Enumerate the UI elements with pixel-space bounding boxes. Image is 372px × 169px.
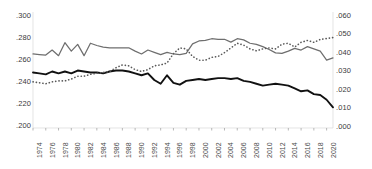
x-axis-tick-label: 2002 bbox=[215, 142, 222, 158]
x-axis-tick-label: 1992 bbox=[151, 142, 158, 158]
x-axis-tick-label: 2020 bbox=[330, 142, 337, 158]
x-axis-tick-label: 1984 bbox=[100, 142, 107, 158]
series-gray-solid bbox=[33, 39, 333, 60]
chart-container: .300 .280 .260 .240 .220 .200 .060 .050 … bbox=[0, 0, 372, 169]
x-axis-tick-label: 1990 bbox=[138, 142, 145, 158]
series-lines bbox=[33, 38, 333, 108]
x-axis-tick-label: 2000 bbox=[202, 142, 209, 158]
x-axis-tick-label: 1994 bbox=[164, 142, 171, 158]
x-axis-tick-label: 2006 bbox=[240, 142, 247, 158]
x-axis-tick-label: 1998 bbox=[189, 142, 196, 158]
x-axis-tick-label: 2018 bbox=[317, 142, 324, 158]
x-axis-tick-label: 2012 bbox=[279, 142, 286, 158]
x-axis-tick-label: 1974 bbox=[36, 142, 43, 158]
x-axis-tick-label: 2010 bbox=[266, 142, 273, 158]
x-axis-tick-label: 1976 bbox=[49, 142, 56, 158]
x-axis-tick-label: 2016 bbox=[304, 142, 311, 158]
x-axis-tick-label: 1978 bbox=[62, 142, 69, 158]
x-axis-tick-label: 1988 bbox=[125, 142, 132, 158]
x-axis-tick-label: 1986 bbox=[113, 142, 120, 158]
x-axis-tick-label: 2014 bbox=[291, 142, 298, 158]
x-axis-tick-label: 1980 bbox=[74, 142, 81, 158]
x-axis-tick-label: 2008 bbox=[253, 142, 260, 158]
x-axis-tick-label: 1982 bbox=[87, 142, 94, 158]
x-axis-tick-label: 1996 bbox=[176, 142, 183, 158]
x-axis-tick-label: 2004 bbox=[227, 142, 234, 158]
